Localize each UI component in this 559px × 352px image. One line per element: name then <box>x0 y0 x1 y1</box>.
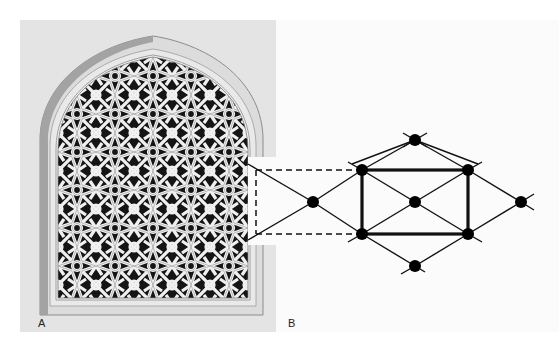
node-left <box>307 196 319 208</box>
node-center <box>409 196 421 208</box>
node-bottom <box>409 260 421 272</box>
panel-a-label: A <box>38 318 45 329</box>
node-rect-bottom-left <box>356 228 368 240</box>
node-rect-top-left <box>356 164 368 176</box>
node-top <box>409 134 421 146</box>
panel-b-label: B <box>288 318 295 329</box>
node-rect-bottom-right <box>462 228 474 240</box>
figure-artwork <box>0 0 559 352</box>
node-rect-top-right <box>462 164 474 176</box>
grid-nodes <box>307 134 527 272</box>
node-right <box>515 196 527 208</box>
